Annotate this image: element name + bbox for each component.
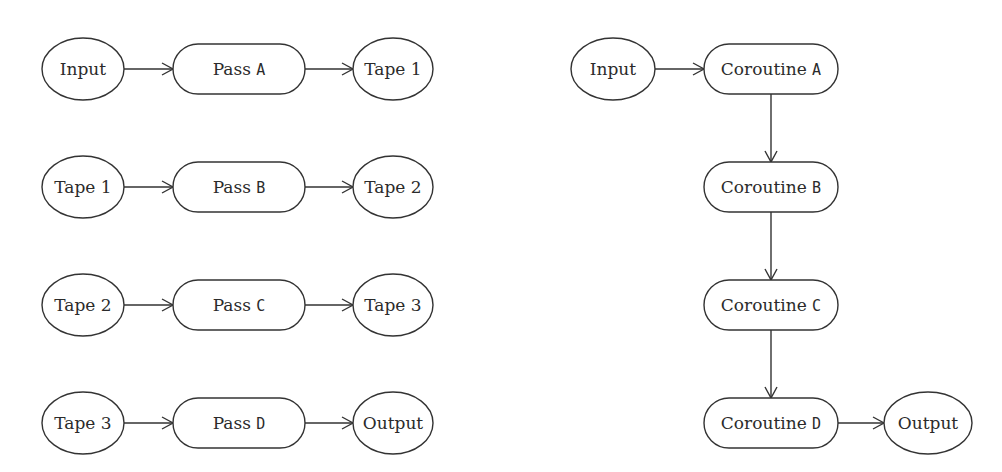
tape-node: Tape 1: [353, 38, 433, 100]
node-label: Coroutine C: [721, 295, 821, 315]
coroutine-node-d: Coroutine D: [704, 398, 838, 448]
node-label: Tape 3: [54, 413, 111, 433]
node-label: Pass D: [213, 413, 266, 433]
pass-node: Pass C: [173, 280, 305, 330]
node-label: Coroutine A: [721, 59, 821, 79]
node-label: Tape 2: [364, 177, 421, 197]
tape-node: Tape 2: [353, 156, 433, 218]
node-label: Pass A: [213, 59, 266, 79]
coroutine-node-c: Coroutine C: [704, 280, 838, 330]
node-label: Pass B: [213, 177, 266, 197]
coroutine-node-b: Coroutine B: [704, 162, 838, 212]
coroutine-node-a: Coroutine A: [704, 44, 838, 94]
node-label: Output: [363, 413, 424, 433]
node-label: Tape 3: [364, 295, 421, 315]
tape-node: Tape 3: [42, 392, 124, 454]
node-label: Tape 1: [364, 59, 421, 79]
pass-node: Pass A: [173, 44, 305, 94]
node-label: Coroutine D: [721, 413, 821, 433]
node-label: Tape 2: [54, 295, 111, 315]
tape-node: Tape 3: [353, 274, 433, 336]
node-label: Input: [590, 59, 636, 79]
multi-pass-diagram: Input Pass A Tape 1 Tape 1 Pass B: [42, 38, 433, 454]
coroutine-diagram: Input Coroutine A Coroutine B Coroutine …: [571, 38, 972, 454]
tape-node: Tape 1: [42, 156, 124, 218]
pass-row-d: Tape 3 Pass D Output: [42, 392, 433, 454]
node-label: Input: [60, 59, 106, 79]
pass-node: Pass D: [173, 398, 305, 448]
pass-node: Pass B: [173, 162, 305, 212]
node-label: Output: [898, 413, 959, 433]
tape-node: Tape 2: [42, 274, 124, 336]
diagram-canvas: Input Pass A Tape 1 Tape 1 Pass B: [0, 0, 1002, 472]
pass-row-c: Tape 2 Pass C Tape 3: [42, 274, 433, 336]
node-label: Coroutine B: [721, 177, 821, 197]
pass-row-b: Tape 1 Pass B Tape 2: [42, 156, 433, 218]
node-label: Tape 1: [54, 177, 111, 197]
input-node: Input: [42, 38, 124, 100]
output-node: Output: [884, 392, 972, 454]
input-node: Input: [571, 38, 655, 100]
pass-row-a: Input Pass A Tape 1: [42, 38, 433, 100]
node-label: Pass C: [213, 295, 266, 315]
output-node: Output: [353, 392, 433, 454]
